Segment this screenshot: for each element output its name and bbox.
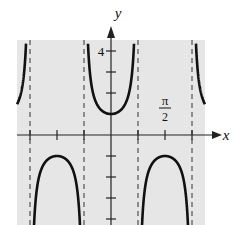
secant-graph: yx4π2 (0, 0, 233, 225)
x-axis-label: x (222, 127, 230, 143)
x-tick-label-pi: π (162, 93, 169, 108)
x-axis-arrow-icon (212, 131, 222, 139)
x-tick-label-2: 2 (162, 110, 168, 124)
y-tick-label-4: 4 (98, 44, 105, 59)
y-axis-arrow-icon (107, 26, 115, 38)
y-axis-label: y (113, 5, 122, 21)
